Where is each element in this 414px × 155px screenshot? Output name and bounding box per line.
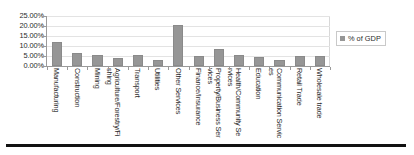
bar bbox=[274, 60, 284, 66]
x-tick-mark bbox=[87, 67, 88, 70]
y-tick-label: 25.00% bbox=[0, 12, 44, 20]
y-tick-mark bbox=[42, 66, 46, 67]
x-category-label: Property/Business Services bbox=[206, 68, 222, 138]
bar bbox=[72, 53, 82, 66]
bar bbox=[194, 56, 204, 66]
bar bbox=[295, 56, 305, 66]
y-tick-label: 15.00% bbox=[0, 32, 44, 40]
bars-layer bbox=[47, 16, 330, 66]
x-category-label: Other Services bbox=[173, 68, 181, 138]
bottom-horizontal-rule bbox=[6, 144, 406, 147]
y-tick-label: 10.00% bbox=[0, 42, 44, 50]
x-category-label: Utilities bbox=[153, 68, 161, 138]
y-tick-mark bbox=[42, 56, 46, 57]
x-category-label: Agriculture/Forestry/Fishing bbox=[105, 68, 121, 138]
x-tick-mark bbox=[108, 67, 109, 70]
x-tick-mark bbox=[310, 67, 311, 70]
y-tick-mark bbox=[42, 36, 46, 37]
legend-label-pct-of-gdp: % of GDP bbox=[348, 34, 381, 43]
bar bbox=[214, 49, 224, 66]
x-axis-category-labels: ManufacturingConstructionMiningAgricultu… bbox=[47, 68, 330, 140]
x-tick-mark bbox=[249, 67, 250, 70]
x-category-label: Transport bbox=[133, 68, 141, 138]
bar bbox=[315, 56, 325, 66]
bar bbox=[234, 55, 244, 66]
bar bbox=[254, 57, 264, 66]
y-tick-label: 0.00% bbox=[0, 62, 44, 70]
gdp-by-industry-bar-chart: 25.00%20.00%15.00%10.00%5.00%0.00% Manuf… bbox=[0, 0, 414, 155]
x-tick-mark bbox=[229, 67, 230, 70]
x-tick-mark bbox=[290, 67, 291, 70]
x-tick-mark bbox=[47, 67, 48, 70]
bar bbox=[52, 42, 62, 66]
x-category-label: Communication Services bbox=[266, 68, 282, 138]
x-tick-mark bbox=[148, 67, 149, 70]
x-category-label: Mining bbox=[93, 68, 101, 138]
x-category-label: Retail Trade bbox=[295, 68, 303, 138]
x-category-label: Manufacturing bbox=[52, 68, 60, 138]
bar bbox=[173, 25, 183, 66]
x-tick-mark bbox=[128, 67, 129, 70]
x-tick-mark bbox=[269, 67, 270, 70]
x-tick-mark bbox=[189, 67, 190, 70]
bar bbox=[113, 58, 123, 66]
y-tick-mark bbox=[42, 16, 46, 17]
x-tick-mark bbox=[209, 67, 210, 70]
y-tick-label: 20.00% bbox=[0, 22, 44, 30]
x-category-label: Education bbox=[254, 68, 262, 138]
bar bbox=[153, 60, 163, 66]
x-tick-mark bbox=[168, 67, 169, 70]
y-axis-tick-labels: 25.00%20.00%15.00%10.00%5.00%0.00% bbox=[0, 11, 44, 71]
x-category-label: Health/Community Services bbox=[226, 68, 242, 138]
y-tick-mark bbox=[42, 26, 46, 27]
chart-legend: % of GDP bbox=[336, 31, 386, 46]
x-category-label: Wholesale trade bbox=[315, 68, 323, 138]
y-tick-label: 5.00% bbox=[0, 52, 44, 60]
bar bbox=[92, 55, 102, 66]
x-category-label: Construction bbox=[72, 68, 80, 138]
y-tick-mark bbox=[42, 46, 46, 47]
x-category-label: Finance/Insurance bbox=[194, 68, 202, 138]
x-tick-mark bbox=[330, 67, 331, 70]
x-tick-mark bbox=[67, 67, 68, 70]
legend-swatch-pct-of-gdp bbox=[340, 36, 345, 41]
bar bbox=[133, 55, 143, 66]
